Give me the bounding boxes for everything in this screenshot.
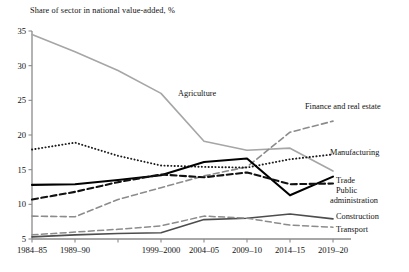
series-label-agriculture: Agriculture: [178, 89, 217, 98]
x-axis: 1984–851989–901999–20002004–052009–10201…: [17, 239, 351, 255]
series-label-public: Public: [336, 186, 358, 195]
y-tick-label: 25: [17, 95, 26, 105]
y-tick-label: 15: [17, 165, 26, 175]
series-label-finance-and-real-estate: Finance and real estate: [305, 102, 381, 111]
y-axis: 5101520253035: [17, 26, 32, 244]
series-label-transport: Transport: [336, 225, 369, 234]
x-tick-label: 2004–05: [189, 245, 219, 255]
line-chart-plot: 5101520253035 1984–851989–901999–2000200…: [0, 0, 409, 272]
y-tick-label: 35: [17, 26, 26, 36]
x-tick-label: 2014–15: [275, 245, 305, 255]
series-lines: [32, 34, 333, 236]
x-tick-label: 2019–20: [318, 245, 348, 255]
y-tick-label: 5: [22, 234, 26, 244]
x-tick-label: 1999–2000: [142, 245, 181, 255]
chart-container: Share of sector in national value-added,…: [0, 0, 409, 272]
series-line-public-administration: [32, 172, 333, 199]
series-line-manufacturing: [32, 143, 333, 168]
y-tick-label: 10: [17, 199, 26, 209]
y-tick-label: 20: [17, 130, 26, 140]
series-line-agriculture: [32, 34, 333, 171]
x-tick-label: 1984–85: [17, 245, 47, 255]
series-label-administration: administration: [330, 196, 379, 205]
series-label-trade: Trade: [336, 176, 355, 185]
series-label-manufacturing: Manufacturing: [330, 148, 379, 157]
y-tick-label: 30: [17, 61, 26, 71]
x-tick-label: 1989–90: [60, 245, 90, 255]
series-label-construction: Construction: [336, 212, 380, 221]
x-tick-label: 2009–10: [232, 245, 262, 255]
